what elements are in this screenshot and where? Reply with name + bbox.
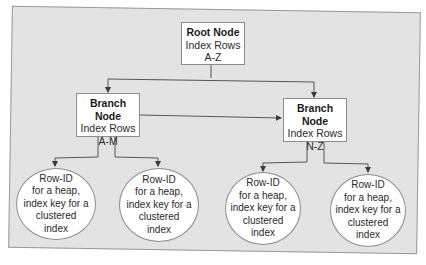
leaf-line: index key for a [23,198,88,211]
leaf-node: Row-ID for a heap, index key for a clust… [330,174,406,247]
branch-node-label: Index Rows [284,127,346,140]
edge-branch-left-to-right [140,115,281,118]
leaf-line: Row-ID [351,179,384,192]
leaf-line: index [147,224,171,237]
leaf-line: Row-ID [39,173,72,186]
root-node-range: A-Z [182,51,244,64]
leaf-line: clustered [243,215,284,228]
branch-node-right: Branch Node Index Rows N-Z [283,98,347,142]
leaf-line: for a heap, [344,192,392,205]
leaf-line: Row-ID [142,174,175,187]
root-node-label: Index Rows [182,39,244,52]
leaf-node: Row-ID for a heap, index key for a clust… [119,168,199,242]
leaf-line: Row-ID [246,177,279,190]
leaf-line: index key for a [335,204,400,217]
branch-node-label: Index Rows [77,122,139,135]
leaf-line: index [251,227,275,240]
leaf-line: index key for a [126,199,191,212]
leaf-line: index [356,229,380,242]
leaf-line: index [44,223,68,236]
branch-node-range: A-M [77,135,139,148]
leaf-node: Row-ID for a heap, index key for a clust… [225,172,301,245]
branch-node-title: Branch Node [284,102,346,127]
diagram-stage: Root Node Index Rows A-Z Branch Node Ind… [0,0,426,265]
branch-node-title: Branch Node [77,97,139,122]
leaf-line: for a heap, [32,185,80,198]
leaf-line: clustered [348,217,389,230]
branch-node-left: Branch Node Index Rows A-M [76,93,140,137]
edge-root-split [108,79,314,82]
leaf-line: for a heap, [239,190,287,203]
leaf-line: for a heap, [135,186,183,199]
leaf-line: clustered [139,211,180,224]
leaf-line: clustered [36,210,77,223]
branch-node-range: N-Z [284,140,346,153]
leaf-line: index key for a [230,202,295,215]
root-node: Root Node Index Rows A-Z [181,22,245,65]
leaf-node: Row-ID for a heap, index key for a clust… [16,168,96,240]
root-node-title: Root Node [182,26,244,39]
